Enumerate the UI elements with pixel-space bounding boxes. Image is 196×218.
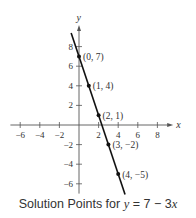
- y-tick-label: −6: [63, 179, 73, 189]
- caption-prefix: Solution Points for: [19, 197, 124, 211]
- y-axis-label: y: [76, 12, 82, 23]
- x-tick-label: 2: [96, 130, 101, 140]
- solution-points: (0, 7)(1, 4)(2, 1)(3, −2)(4, −5): [77, 52, 148, 181]
- y-tick-label: 4: [69, 81, 74, 91]
- y-tick-label: −2: [63, 140, 73, 150]
- x-tick-label: −6: [15, 130, 25, 140]
- data-point-label: (1, 4): [93, 81, 114, 92]
- caption-var-x: x: [172, 197, 178, 211]
- x-axis-arrow-icon: [167, 123, 173, 127]
- x-tick-label: −4: [35, 130, 45, 140]
- x-axis-label: x: [175, 119, 181, 130]
- data-point: [116, 172, 120, 176]
- data-point: [97, 113, 101, 117]
- data-point: [87, 84, 91, 88]
- y-tick-label: 2: [69, 100, 74, 110]
- x-tick-label: −2: [55, 130, 65, 140]
- data-point: [106, 143, 110, 147]
- y-tick-label: 6: [69, 61, 74, 71]
- caption-equals: = 7 − 3: [129, 197, 171, 211]
- y-axis-arrow-icon: [77, 25, 81, 31]
- chart: xy −6−4−22468−6−4−22468 (0, 7)(1, 4)(2, …: [0, 0, 196, 200]
- x-tick-label: 8: [155, 130, 160, 140]
- data-point-label: (2, 1): [103, 111, 124, 122]
- ticks: −6−4−22468−6−4−22468: [15, 42, 160, 189]
- data-point-label: (0, 7): [83, 52, 104, 63]
- x-tick-label: 6: [136, 130, 141, 140]
- data-point-label: (3, −2): [112, 140, 138, 151]
- y-tick-label: 8: [69, 42, 74, 52]
- data-point: [77, 54, 81, 58]
- data-point-label: (4, −5): [122, 170, 148, 181]
- axes: xy: [10, 12, 181, 194]
- chart-caption: Solution Points for y = 7 − 3x: [0, 197, 196, 212]
- y-tick-label: −4: [63, 159, 73, 169]
- x-tick-label: 4: [116, 130, 121, 140]
